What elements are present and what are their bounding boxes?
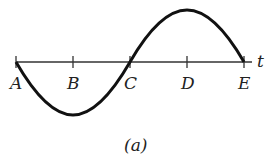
- point-label-b: B: [66, 73, 80, 93]
- caption: (a): [124, 135, 147, 155]
- sine-wave-diagram: t A B C D E (a): [0, 0, 275, 165]
- point-label-d: D: [180, 73, 195, 93]
- point-label-a: A: [8, 73, 22, 93]
- point-label-c: C: [124, 73, 137, 93]
- point-label-e: E: [237, 73, 251, 93]
- axis-label-t: t: [257, 51, 264, 71]
